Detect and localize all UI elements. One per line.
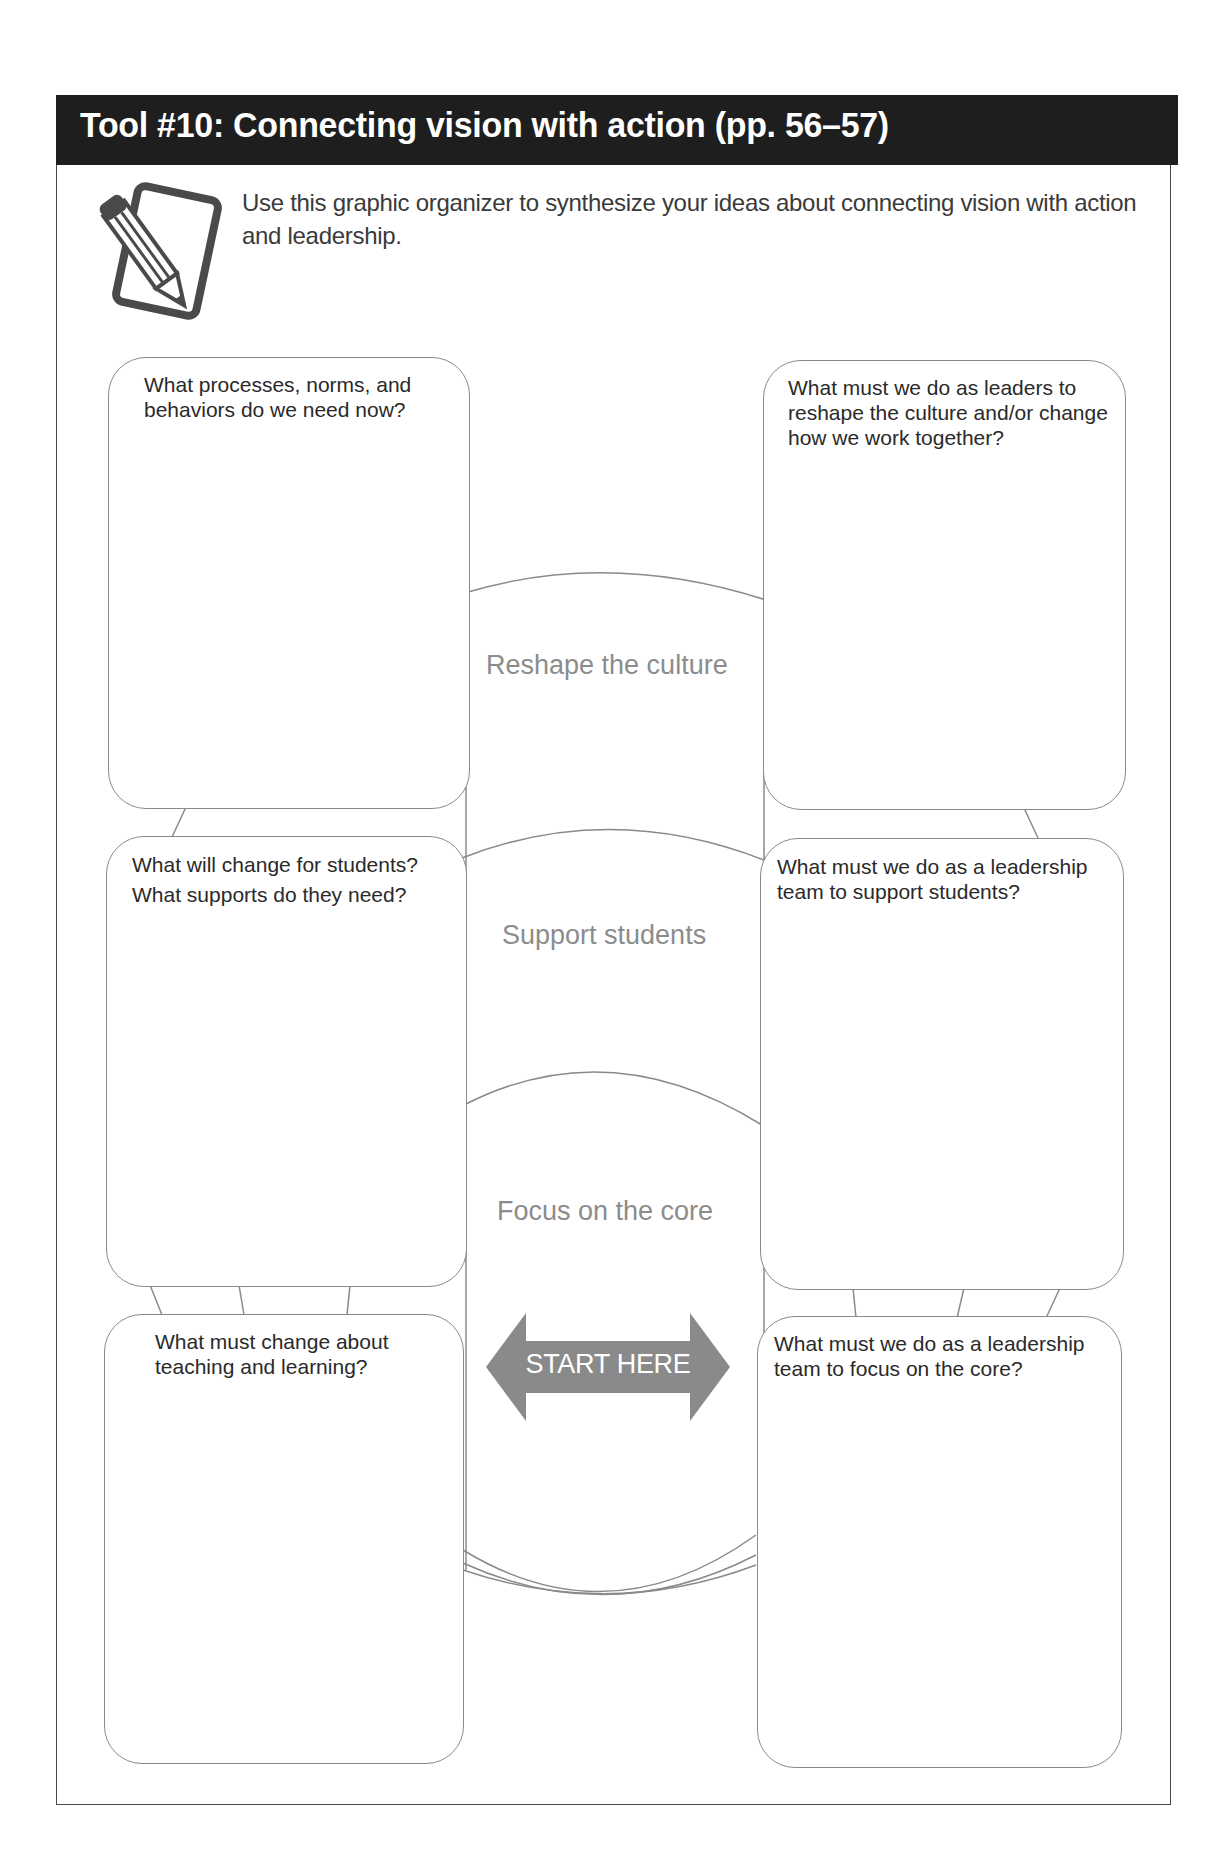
- question-label: What must we do as a leadership team to …: [777, 854, 1117, 904]
- question-label: What will change for students? What supp…: [132, 850, 452, 910]
- center-label-focus-core: Focus on the core: [497, 1196, 713, 1227]
- page-title: Tool #10: Connecting vision with action …: [80, 105, 889, 145]
- question-label: What must we do as leaders to reshape th…: [788, 375, 1108, 450]
- question-label: What must change about teaching and lear…: [155, 1329, 445, 1379]
- start-here-label: START HERE: [486, 1349, 730, 1380]
- center-label-reshape-culture: Reshape the culture: [486, 650, 728, 681]
- header-bar: Tool #10: Connecting vision with action …: [56, 95, 1178, 165]
- question-box-support-students-team[interactable]: [760, 838, 1124, 1290]
- question-box-processes-norms[interactable]: [108, 357, 470, 809]
- pencil-notepad-icon: [88, 180, 228, 330]
- question-label: What must we do as a leadership team to …: [774, 1331, 1114, 1381]
- question-label: What processes, norms, and behaviors do …: [144, 372, 444, 422]
- question-box-focus-core-team[interactable]: [757, 1316, 1122, 1768]
- question-box-teaching-learning[interactable]: [104, 1314, 464, 1764]
- intro-text: Use this graphic organizer to synthesize…: [242, 186, 1142, 252]
- center-label-support-students: Support students: [502, 920, 706, 951]
